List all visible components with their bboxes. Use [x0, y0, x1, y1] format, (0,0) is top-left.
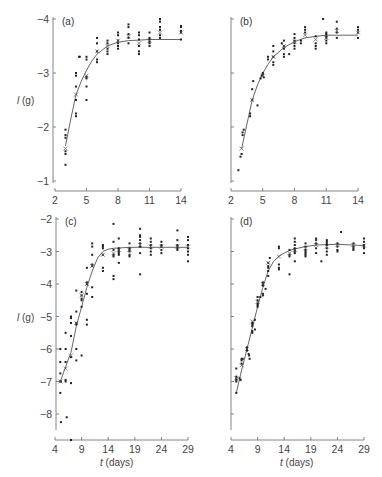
data-point	[289, 255, 291, 257]
data-point	[260, 77, 262, 79]
data-point	[278, 247, 280, 249]
data-point	[96, 61, 98, 63]
data-point	[304, 29, 306, 31]
y-tick-label: −2	[40, 213, 52, 225]
y-tick-label: −4	[37, 13, 49, 25]
data-point	[315, 45, 317, 47]
mean-marker	[314, 38, 318, 42]
x-tick-label: 19	[129, 443, 141, 455]
x-axis-title-right: t (days)	[280, 457, 313, 468]
mean-marker	[137, 41, 141, 45]
data-point	[363, 241, 365, 243]
data-point	[91, 242, 93, 244]
x-tick-label: 5	[84, 194, 90, 206]
data-point	[86, 293, 88, 295]
data-point	[75, 113, 77, 115]
data-point	[272, 64, 274, 66]
data-point	[118, 254, 120, 256]
data-point	[187, 251, 189, 253]
data-point	[237, 169, 239, 171]
data-point	[96, 42, 98, 44]
mean-marker	[266, 261, 270, 265]
data-point	[113, 275, 115, 277]
x-tick-label: 11	[144, 194, 155, 206]
data-point	[294, 33, 296, 35]
data-point	[65, 164, 67, 166]
data-point	[107, 50, 109, 52]
data-point	[149, 45, 151, 47]
mean-marker	[95, 49, 99, 53]
data-point	[289, 273, 291, 275]
data-point	[70, 322, 72, 324]
data-point	[70, 317, 72, 319]
x-tick-label: 5	[260, 194, 266, 206]
data-point	[305, 255, 307, 257]
data-point	[325, 40, 327, 42]
data-point	[65, 332, 67, 334]
y-tick-label: −8	[40, 408, 52, 420]
data-point	[251, 88, 253, 90]
data-point	[150, 254, 152, 256]
data-point	[65, 137, 67, 139]
data-point	[128, 33, 130, 35]
data-point	[59, 392, 61, 394]
data-point	[315, 252, 317, 254]
y-axis-unit: (g)	[19, 312, 34, 323]
data-point	[159, 29, 161, 31]
data-point	[113, 249, 115, 251]
data-point	[117, 48, 119, 50]
data-point	[187, 239, 189, 241]
data-point	[180, 39, 182, 41]
data-point	[65, 153, 67, 155]
data-point	[272, 61, 274, 63]
data-point	[139, 228, 141, 230]
data-point	[138, 39, 140, 41]
x-tick-label: 24	[332, 443, 344, 455]
data-point	[102, 247, 104, 249]
data-point	[102, 267, 104, 269]
data-point	[86, 99, 88, 101]
data-point	[107, 48, 109, 50]
panel-b: 2581114(b)	[228, 16, 364, 206]
y-tick-label: −6	[40, 343, 52, 355]
data-point	[240, 379, 242, 381]
data-point	[81, 306, 83, 308]
data-point	[336, 251, 338, 253]
data-point	[252, 80, 254, 82]
data-point	[251, 325, 253, 327]
data-point	[357, 37, 359, 39]
panel-label: (a)	[62, 16, 74, 27]
data-point	[242, 134, 244, 136]
data-point	[249, 115, 251, 117]
data-point	[272, 45, 274, 47]
data-point	[357, 29, 359, 31]
figure-canvas: −4−3−2−12581114(a) 2581114(b) −2−3−4−5−6…	[0, 0, 382, 477]
data-point	[278, 268, 280, 270]
x-tick-label: 2	[228, 194, 234, 206]
fitted-curve	[60, 247, 188, 381]
data-point	[326, 251, 328, 253]
data-point	[96, 37, 98, 39]
panel-d: 4914192429(d)	[228, 216, 370, 455]
data-point	[65, 129, 67, 131]
data-point	[325, 42, 327, 44]
data-point	[326, 254, 328, 256]
data-point	[138, 53, 140, 55]
data-point	[70, 439, 72, 441]
y-axis-title-bottom: l (g)	[17, 312, 34, 323]
data-point	[289, 249, 291, 251]
data-point	[267, 270, 269, 272]
data-point	[294, 260, 296, 262]
data-point	[320, 260, 322, 262]
data-point	[363, 247, 365, 249]
x-tick-label: 9	[255, 443, 261, 455]
data-point	[118, 262, 120, 264]
data-point	[283, 40, 285, 42]
data-point	[149, 32, 151, 34]
data-point	[160, 249, 162, 251]
data-point	[96, 59, 98, 61]
data-point	[107, 53, 109, 55]
y-tick-label: −7	[40, 376, 52, 388]
y-tick-label: −3	[40, 246, 52, 258]
y-axis-title-top: l (g)	[17, 95, 34, 106]
